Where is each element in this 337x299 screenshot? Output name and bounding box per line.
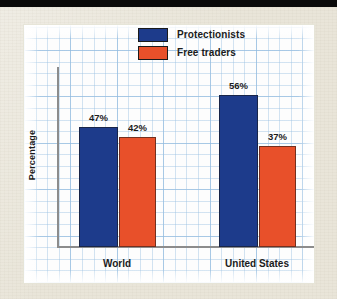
chart-screenshot: Protectionists Free traders Percentage 4…	[0, 0, 337, 299]
bar-us-protectionists	[219, 95, 258, 247]
bars-layer	[0, 0, 337, 247]
bar-us-free-traders	[259, 146, 296, 247]
bar-value-world-protectionists: 47%	[79, 112, 118, 123]
bar-value-us-free-traders: 37%	[259, 131, 296, 142]
bar-value-us-protectionists: 56%	[219, 80, 258, 91]
bar-world-protectionists	[79, 127, 118, 247]
bar-value-world-free-traders: 42%	[119, 122, 156, 133]
x-axis-label-united-states: United States	[212, 258, 302, 269]
bar-world-free-traders	[119, 137, 156, 247]
x-axis-label-world: World	[76, 258, 158, 269]
